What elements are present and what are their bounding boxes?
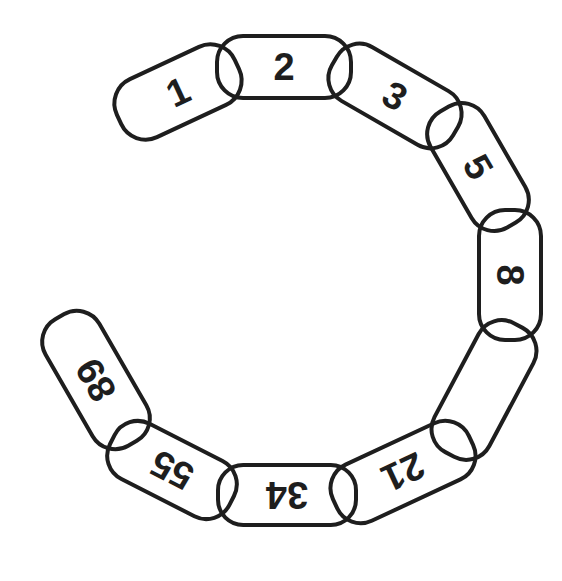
link-number: 21	[375, 444, 431, 500]
chain-link: 55	[98, 412, 246, 528]
chain-link: 89	[33, 301, 160, 458]
chain-link	[422, 311, 545, 469]
fibonacci-chain-diagram: 1235821345589	[0, 0, 562, 581]
link-number: 1	[160, 69, 197, 116]
link-outline	[422, 311, 545, 469]
chain-link: 3	[319, 34, 471, 158]
chain-link: 5	[418, 93, 539, 240]
link-number: 34	[266, 474, 308, 516]
chain-links: 1235821345589	[33, 34, 546, 532]
link-number: 5	[455, 147, 502, 186]
link-number: 3	[375, 73, 414, 120]
link-number: 2	[273, 46, 294, 88]
link-number: 55	[144, 442, 201, 499]
link-number: 8	[489, 264, 531, 285]
link-number: 89	[67, 351, 125, 409]
